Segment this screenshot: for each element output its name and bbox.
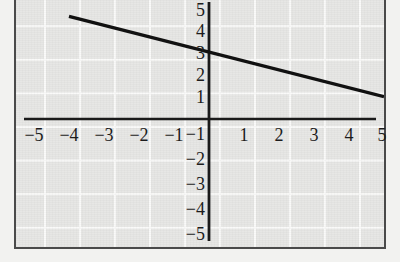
x-tick-label--3: −3 — [94, 126, 113, 144]
x-tick-label-5: 5 — [378, 126, 387, 144]
graph-figure: −5 −4 −3 −2 −1 1 2 3 4 5 5 4 3 2 1 −1 −2… — [0, 0, 400, 262]
x-tick-label-1: 1 — [240, 126, 249, 144]
plotted-line — [69, 16, 384, 96]
y-tick-label-5: 5 — [196, 1, 205, 19]
y-tick-label--1: −1 — [186, 125, 205, 143]
y-tick-label--2: −2 — [186, 150, 205, 168]
plot-frame: −5 −4 −3 −2 −1 1 2 3 4 5 5 4 3 2 1 −1 −2… — [14, 0, 386, 249]
x-tick-label-2: 2 — [275, 126, 284, 144]
x-tick-label-3: 3 — [310, 126, 319, 144]
y-tick-label-4: 4 — [196, 22, 205, 40]
x-tick-label--1: −1 — [164, 126, 183, 144]
y-tick-label-2: 2 — [196, 66, 205, 84]
y-tick-label-1: 1 — [196, 88, 205, 106]
y-tick-label--5: −5 — [186, 225, 205, 243]
x-tick-label--4: −4 — [59, 126, 78, 144]
x-tick-label--2: −2 — [129, 126, 148, 144]
y-tick-label-3: 3 — [196, 44, 205, 62]
x-tick-label-4: 4 — [345, 126, 354, 144]
y-tick-label--3: −3 — [186, 175, 205, 193]
x-tick-label--5: −5 — [24, 126, 43, 144]
y-tick-label--4: −4 — [186, 200, 205, 218]
